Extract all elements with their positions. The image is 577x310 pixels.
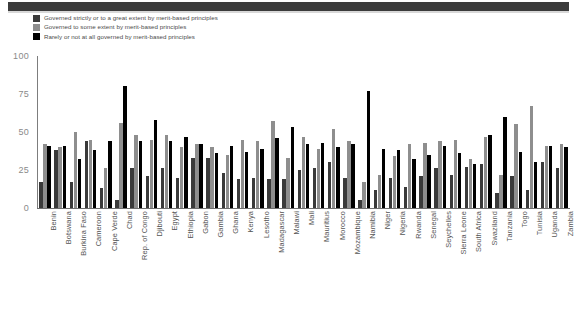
- bar[interactable]: [317, 149, 320, 208]
- bar[interactable]: [495, 193, 498, 208]
- bar[interactable]: [161, 168, 164, 208]
- bar[interactable]: [123, 86, 126, 208]
- bar-group[interactable]: [510, 56, 524, 208]
- bar[interactable]: [39, 182, 42, 208]
- bar-group[interactable]: [282, 56, 296, 208]
- bar[interactable]: [267, 179, 270, 208]
- bar[interactable]: [530, 106, 533, 208]
- bar[interactable]: [336, 147, 339, 208]
- bar[interactable]: [275, 138, 278, 208]
- bar-group[interactable]: [343, 56, 357, 208]
- bar-group[interactable]: [222, 56, 236, 208]
- bar-group[interactable]: [374, 56, 388, 208]
- bar-group[interactable]: [161, 56, 175, 208]
- bar[interactable]: [347, 141, 350, 208]
- bar[interactable]: [484, 137, 487, 208]
- bar-group[interactable]: [191, 56, 205, 208]
- bar-group[interactable]: [85, 56, 99, 208]
- bar[interactable]: [367, 91, 370, 208]
- bar-group[interactable]: [556, 56, 570, 208]
- bar[interactable]: [63, 146, 66, 208]
- bar[interactable]: [351, 144, 354, 208]
- bar[interactable]: [389, 178, 392, 208]
- bar[interactable]: [226, 155, 229, 208]
- bar[interactable]: [393, 156, 396, 208]
- bar[interactable]: [397, 150, 400, 208]
- bar[interactable]: [154, 120, 157, 208]
- bar[interactable]: [510, 176, 513, 208]
- bar-group[interactable]: [252, 56, 266, 208]
- bar[interactable]: [419, 176, 422, 208]
- bar[interactable]: [134, 135, 137, 208]
- bar[interactable]: [412, 159, 415, 208]
- bar[interactable]: [100, 188, 103, 208]
- bar[interactable]: [545, 146, 548, 208]
- bar-group[interactable]: [480, 56, 494, 208]
- bar[interactable]: [85, 141, 88, 208]
- bar[interactable]: [503, 117, 506, 208]
- bar[interactable]: [438, 141, 441, 208]
- bar[interactable]: [222, 173, 225, 208]
- bar-group[interactable]: [115, 56, 129, 208]
- bar[interactable]: [184, 137, 187, 208]
- bar[interactable]: [191, 158, 194, 208]
- bar[interactable]: [252, 178, 255, 208]
- bar-group[interactable]: [39, 56, 53, 208]
- bar-group[interactable]: [313, 56, 327, 208]
- bar[interactable]: [195, 144, 198, 208]
- bar[interactable]: [43, 144, 46, 208]
- bar-group[interactable]: [526, 56, 540, 208]
- bar[interactable]: [241, 140, 244, 208]
- bar-group[interactable]: [419, 56, 433, 208]
- bar[interactable]: [454, 140, 457, 208]
- bar[interactable]: [514, 124, 517, 208]
- bar[interactable]: [199, 144, 202, 208]
- bar[interactable]: [47, 146, 50, 208]
- bar[interactable]: [302, 137, 305, 208]
- bar[interactable]: [473, 164, 476, 208]
- bar-group[interactable]: [176, 56, 190, 208]
- bar[interactable]: [70, 182, 73, 208]
- bar[interactable]: [291, 127, 294, 208]
- bar[interactable]: [404, 187, 407, 208]
- bar[interactable]: [206, 158, 209, 208]
- bar[interactable]: [465, 167, 468, 208]
- bar[interactable]: [119, 123, 122, 208]
- bar[interactable]: [271, 121, 274, 208]
- bar[interactable]: [104, 168, 107, 208]
- bar[interactable]: [374, 190, 377, 208]
- bar-group[interactable]: [465, 56, 479, 208]
- bar[interactable]: [58, 147, 61, 208]
- bar[interactable]: [298, 170, 301, 208]
- bar[interactable]: [169, 141, 172, 208]
- bar-group[interactable]: [541, 56, 555, 208]
- bar[interactable]: [215, 153, 218, 208]
- bar-group[interactable]: [54, 56, 68, 208]
- bar[interactable]: [488, 135, 491, 208]
- bar[interactable]: [130, 168, 133, 208]
- bar-group[interactable]: [389, 56, 403, 208]
- bar[interactable]: [89, 140, 92, 208]
- bar[interactable]: [564, 147, 567, 208]
- bar[interactable]: [180, 147, 183, 208]
- bar[interactable]: [556, 168, 559, 208]
- bar[interactable]: [469, 159, 472, 208]
- bar-group[interactable]: [298, 56, 312, 208]
- bar[interactable]: [146, 176, 149, 208]
- bar[interactable]: [434, 168, 437, 208]
- bar[interactable]: [328, 162, 331, 208]
- bar[interactable]: [443, 146, 446, 208]
- bar[interactable]: [74, 132, 77, 208]
- bar-group[interactable]: [450, 56, 464, 208]
- bar-group[interactable]: [404, 56, 418, 208]
- bar[interactable]: [343, 178, 346, 208]
- bar-group[interactable]: [70, 56, 84, 208]
- bar[interactable]: [408, 144, 411, 208]
- bar[interactable]: [321, 143, 324, 208]
- bar-group[interactable]: [146, 56, 160, 208]
- bar[interactable]: [458, 153, 461, 208]
- bar[interactable]: [286, 158, 289, 208]
- bar-group[interactable]: [100, 56, 114, 208]
- bar[interactable]: [108, 141, 111, 208]
- bar-group[interactable]: [237, 56, 251, 208]
